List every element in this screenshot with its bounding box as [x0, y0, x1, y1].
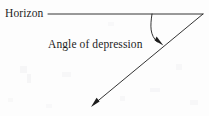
horizon-label: Horizon	[5, 8, 43, 20]
angle-of-depression-label: Angle of depression	[48, 39, 143, 51]
angle-of-depression-diagram: Horizon Angle of depression	[0, 0, 209, 116]
line-of-sight-ray	[94, 14, 204, 105]
ray-arrowhead-icon	[91, 98, 100, 107]
arc-arrowhead-icon	[155, 36, 164, 45]
